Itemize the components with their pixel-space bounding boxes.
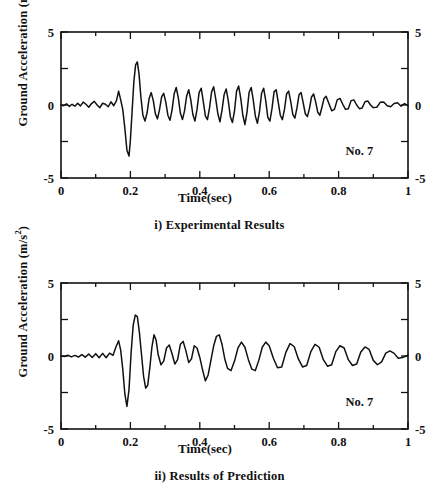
plot-area-experimental: 00.20.40.60.81-5-50055No. 7 bbox=[0, 0, 439, 208]
y-axis-label-text: Ground Acceleration (m/s bbox=[16, 235, 30, 378]
y-axis-label-text: Ground Acceleration (m/s bbox=[16, 0, 30, 126]
y-axis-label-close: ) bbox=[16, 226, 30, 230]
plot-annotation: No. 7 bbox=[346, 395, 374, 409]
chart-experimental: 00.20.40.60.81-5-50055No. 7 bbox=[0, 0, 439, 208]
x-axis-label-prediction: Time(sec) bbox=[0, 441, 410, 457]
y-tick-label-left: 0 bbox=[48, 350, 54, 364]
chart-prediction: 00.20.40.60.81-5-50055No. 7 bbox=[0, 251, 439, 459]
x-axis-label-experimental: Time(sec) bbox=[0, 190, 410, 206]
plot-area-prediction: 00.20.40.60.81-5-50055No. 7 bbox=[0, 251, 439, 459]
plot-annotation: No. 7 bbox=[346, 144, 374, 158]
data-trace bbox=[61, 315, 408, 406]
y-axis-label-exponent: 2 bbox=[13, 230, 23, 234]
y-tick-label-left: 5 bbox=[48, 277, 54, 291]
figure-panel-prediction: 00.20.40.60.81-5-50055No. 7 Ground Accel… bbox=[0, 251, 439, 501]
data-trace bbox=[61, 62, 408, 156]
y-axis-label-experimental: Ground Acceleration (m/s2) bbox=[13, 0, 30, 141]
y-tick-label-left: 0 bbox=[48, 99, 54, 113]
y-tick-label-left: -5 bbox=[44, 423, 54, 437]
caption-experimental: i) Experimental Results bbox=[0, 218, 439, 233]
y-tick-label-left: -5 bbox=[44, 172, 54, 186]
y-tick-label-right: 5 bbox=[415, 277, 421, 291]
figure-panel-experimental: 00.20.40.60.81-5-50055No. 7 Ground Accel… bbox=[0, 0, 439, 250]
y-tick-label-left: 5 bbox=[48, 26, 54, 40]
y-tick-label-right: 0 bbox=[415, 350, 421, 364]
caption-prediction: ii) Results of Prediction bbox=[0, 469, 439, 484]
y-tick-label-right: 5 bbox=[415, 26, 421, 40]
y-tick-label-right: 0 bbox=[415, 99, 421, 113]
y-axis-label-prediction: Ground Acceleration (m/s2) bbox=[13, 212, 30, 392]
y-tick-label-right: -5 bbox=[415, 172, 425, 186]
y-tick-label-right: -5 bbox=[415, 423, 425, 437]
